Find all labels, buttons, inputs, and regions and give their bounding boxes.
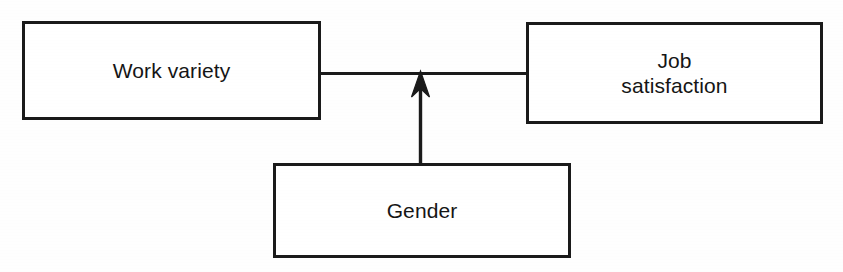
node-job-satisfaction-label: Job satisfaction <box>621 48 727 98</box>
node-work-variety-label: Work variety <box>113 58 231 83</box>
node-job-satisfaction[interactable]: Job satisfaction <box>526 22 823 124</box>
node-gender-label: Gender <box>387 198 458 223</box>
arrowhead-up-icon <box>412 71 430 97</box>
node-gender[interactable]: Gender <box>273 163 571 258</box>
node-work-variety[interactable]: Work variety <box>22 21 321 120</box>
diagram-canvas: Work variety Job satisfaction Gender <box>0 0 843 272</box>
